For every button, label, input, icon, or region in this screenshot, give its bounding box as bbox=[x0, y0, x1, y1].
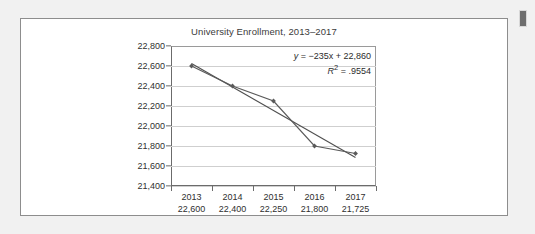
x-axis-label-column: 201621,800 bbox=[294, 191, 335, 215]
x-axis-category-label: 2017 bbox=[335, 191, 376, 203]
x-axis-label-column: 201322,600 bbox=[171, 191, 212, 215]
x-axis-value-label: 22,250 bbox=[253, 203, 294, 215]
trendline-annotation: y = −235x + 22,860 R2 = .9554 bbox=[267, 50, 371, 77]
y-axis-tick-label: 22,000 bbox=[137, 121, 165, 131]
y-axis-tick-label: 22,200 bbox=[137, 101, 165, 111]
x-axis-category-label: 2016 bbox=[294, 191, 335, 203]
y-axis-tick-label: 22,600 bbox=[137, 61, 165, 71]
trendline-equation: y = −235x + 22,860 bbox=[267, 50, 371, 62]
data-series-path bbox=[192, 66, 356, 154]
y-axis-tick-label: 21,800 bbox=[137, 141, 165, 151]
y-axis-tick-label: 21,400 bbox=[137, 181, 165, 191]
x-axis-category-label: 2014 bbox=[212, 191, 253, 203]
x-axis-label-column: 201721,725 bbox=[335, 191, 376, 215]
chart-card: University Enrollment, 2013–2017 22,8002… bbox=[20, 18, 508, 216]
y-axis-tick-label: 21,600 bbox=[137, 161, 165, 171]
chart-title: University Enrollment, 2013–2017 bbox=[21, 26, 507, 37]
plot-wrapper: 22,80022,60022,40022,20022,00021,80021,6… bbox=[171, 46, 376, 186]
x-axis-value-label: 21,800 bbox=[294, 203, 335, 215]
page-edge-marker bbox=[519, 10, 527, 27]
x-axis-value-label: 21,725 bbox=[335, 203, 376, 215]
r-squared-value: R2 = .9554 bbox=[267, 62, 371, 77]
x-axis-label-column: 201422,400 bbox=[212, 191, 253, 215]
page-background: University Enrollment, 2013–2017 22,8002… bbox=[0, 0, 535, 234]
y-axis-tick-label: 22,400 bbox=[137, 81, 165, 91]
y-axis-tick-label: 22,800 bbox=[137, 41, 165, 51]
x-axis-value-label: 22,400 bbox=[212, 203, 253, 215]
x-axis-label-column: 201522,250 bbox=[253, 191, 294, 215]
x-axis-labels: 201322,600201422,400201522,250201621,800… bbox=[171, 191, 376, 215]
x-axis-tick-mark bbox=[376, 186, 377, 191]
equation-body: = −235x + 22,860 bbox=[298, 51, 371, 61]
x-axis-value-label: 22,600 bbox=[171, 203, 212, 215]
x-axis-category-label: 2013 bbox=[171, 191, 212, 203]
data-point-marker bbox=[353, 151, 358, 156]
x-axis-category-label: 2015 bbox=[253, 191, 294, 203]
gridline bbox=[171, 186, 376, 187]
r-squared-rest: = .9554 bbox=[338, 66, 371, 76]
